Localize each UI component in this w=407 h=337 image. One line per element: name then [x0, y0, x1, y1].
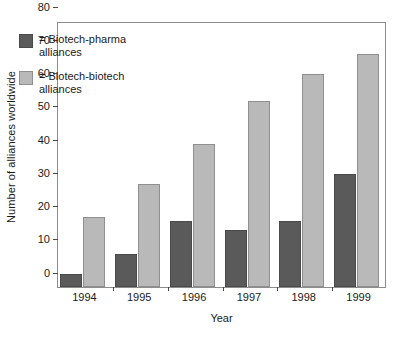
legend-item: = Biotech-pharma alliances: [19, 33, 126, 59]
x-axis-tick-label: 1994: [57, 291, 111, 303]
chart-legend: = Biotech-pharma alliances= Biotech-biot…: [19, 33, 126, 96]
x-axis-tick-label: 1995: [112, 291, 166, 303]
bar: [302, 74, 324, 287]
y-axis-tick-label: 50: [28, 101, 50, 112]
bar: [225, 230, 247, 287]
y-axis-tick: 80: [28, 0, 58, 14]
bar: [60, 274, 82, 287]
legend-item: = Biotech-biotech alliances: [19, 70, 126, 96]
y-axis-tick-label: 10: [28, 234, 50, 245]
x-axis-tick-label: 1999: [332, 291, 386, 303]
y-axis-tick-label: 80: [28, 2, 50, 13]
x-axis-tick-label: 1996: [167, 291, 221, 303]
y-axis-title: Number of alliances worldwide: [2, 2, 20, 292]
y-axis-tick: 40: [28, 133, 58, 147]
y-axis-tick-label: 20: [28, 201, 50, 212]
x-axis-tick-label: 1997: [222, 291, 276, 303]
x-axis-title: Year: [57, 312, 386, 324]
legend-label: = Biotech-pharma alliances: [39, 33, 126, 59]
bar: [357, 54, 379, 287]
y-axis-tick: 30: [28, 166, 58, 180]
bar: [138, 184, 160, 287]
y-axis-tick-label: 30: [28, 168, 50, 179]
bar: [279, 221, 301, 288]
bar-group: [223, 23, 278, 287]
bar: [248, 101, 270, 287]
y-axis-tick: 10: [28, 233, 58, 247]
bar: [334, 174, 356, 287]
legend-swatch: [19, 71, 33, 85]
legend-swatch: [19, 34, 33, 48]
x-axis-tick-label: 1998: [277, 291, 331, 303]
y-axis-tick: 20: [28, 200, 58, 214]
legend-label: = Biotech-biotech alliances: [39, 70, 124, 96]
bar: [115, 254, 137, 287]
bar-group: [277, 23, 332, 287]
bar: [193, 144, 215, 287]
bar: [170, 221, 192, 288]
bar-group: [168, 23, 223, 287]
y-axis-tick: 50: [28, 100, 58, 114]
y-axis-tick-mark: [53, 7, 58, 8]
bar-group: [332, 23, 387, 287]
y-axis-tick-label: 40: [28, 135, 50, 146]
bar-chart-figure: Number of alliances worldwide 0102030405…: [0, 0, 407, 337]
bar: [83, 217, 105, 287]
y-axis-tick-label: 0: [28, 268, 50, 279]
y-axis-tick: 0: [28, 266, 58, 280]
